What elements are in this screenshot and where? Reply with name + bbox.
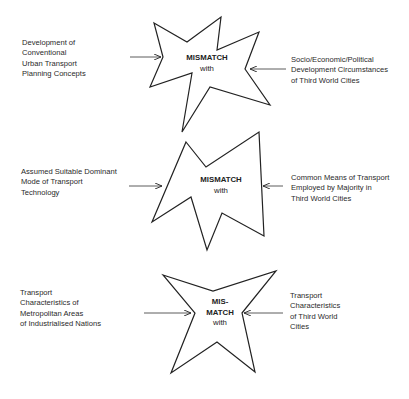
mismatch-text: MIS- [199,297,241,308]
mismatch-diagram: Development of Conventional Urban Transp… [0,0,409,399]
with-text: with [190,186,252,197]
text-line: Transport [290,291,340,301]
text-line: Cities [290,322,340,332]
text-line: Urban Transport [22,59,86,69]
row-1-star-label: MISMATCH with [176,53,238,74]
row-3-star-label: MIS- MATCH with [199,297,241,329]
text-line: Assumed Suitable Dominant [21,167,117,177]
text-line: Common Means of Transport [291,173,389,183]
text-line: Characteristics of [20,298,101,308]
text-line: Mode of Transport [21,177,117,187]
text-line: of Third World [290,312,340,322]
text-line: Employed by Majority in [291,183,389,193]
text-line: Planning Concepts [22,69,86,79]
text-line: Technology [21,188,117,198]
text-line: Conventional [22,48,86,58]
text-line: of Third World Cities [291,76,388,86]
row-3-left-label: Transport Characteristics of Metropolita… [20,288,101,329]
with-text: with [199,318,241,329]
row-2-left-label: Assumed Suitable Dominant Mode of Transp… [21,167,117,198]
row-2-star-label: MISMATCH with [190,175,252,196]
text-line: Metropolitan Areas [20,309,101,319]
mismatch-text: MATCH [199,308,241,319]
row-1-left-label: Development of Conventional Urban Transp… [22,38,86,79]
text-line: Third World Cities [291,194,389,204]
with-text: with [176,64,238,75]
row-3-right-label: Transport Characteristics of Third World… [290,291,340,332]
mismatch-text: MISMATCH [190,175,252,186]
mismatch-star-1 [150,17,270,132]
text-line: Development of [22,38,86,48]
text-line: Characteristics [290,301,340,311]
row-1-right-label: Socio/Economic/Political Development Cir… [291,55,388,86]
text-line: Transport [20,288,101,298]
text-line: of Industrialised Nations [20,319,101,329]
mismatch-text: MISMATCH [176,53,238,64]
text-line: Development Circumstances [291,65,388,75]
row-2-right-label: Common Means of Transport Employed by Ma… [291,173,389,204]
text-line: Socio/Economic/Political [291,55,388,65]
